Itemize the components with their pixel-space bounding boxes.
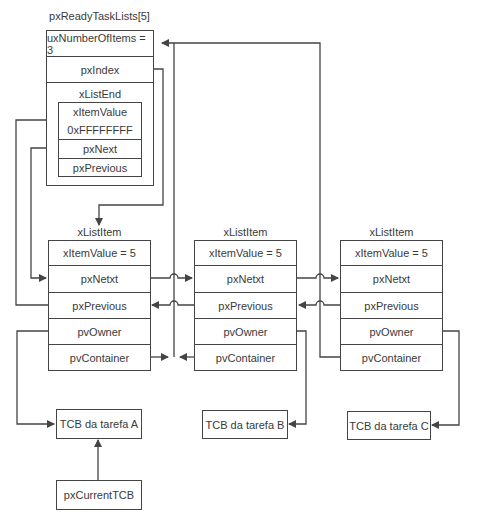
tcb-task-a: TCB da tarefa A (56, 409, 142, 439)
list-end-px-next: pxNext (59, 140, 141, 159)
px-next-field: pxNetxt (49, 266, 150, 293)
ready-list-box: uxNumberOfItems = 3 pxIndex xListEnd xIt… (46, 30, 154, 186)
current-tcb-pointer: pxCurrentTCB (56, 480, 142, 510)
list-item-2-title: xListItem (194, 226, 297, 238)
item-value-field: xItemValue = 5 (195, 241, 296, 266)
list-item-1-title: xListItem (48, 226, 151, 238)
ready-list-title: pxReadyTaskLists[5] (46, 10, 153, 22)
px-previous-field: pxPrevious (49, 293, 150, 319)
item-value: 0xFFFFFFFF (67, 121, 132, 139)
list-item-3-title: xListItem (340, 226, 443, 238)
px-index-field: pxIndex (47, 57, 153, 83)
list-item-3: xItemValue = 5 pxNetxt pxPrevious pvOwne… (340, 240, 443, 371)
pv-owner-field: pvOwner (195, 319, 296, 345)
pv-container-field: pvContainer (195, 345, 296, 371)
px-previous-field: pxPrevious (195, 293, 296, 319)
px-next-field: pxNetxt (195, 266, 296, 293)
tcb-task-c: TCB da tarefa C (347, 411, 431, 440)
list-item-1: xItemValue = 5 pxNetxt pxPrevious pvOwne… (48, 240, 151, 371)
item-value-label: xItemValue (73, 103, 127, 121)
pv-container-field: pvContainer (341, 345, 442, 371)
item-value-field: xItemValue = 5 (49, 241, 150, 266)
pv-owner-field: pvOwner (341, 319, 442, 345)
px-next-field: pxNetxt (341, 266, 442, 293)
list-item-2: xItemValue = 5 pxNetxt pxPrevious pvOwne… (194, 240, 297, 371)
list-end-px-previous: pxPrevious (59, 159, 141, 177)
list-end-box: xItemValue 0xFFFFFFFF pxNext pxPrevious (58, 102, 142, 177)
px-previous-field: pxPrevious (341, 293, 442, 319)
ux-number-of-items-field: uxNumberOfItems = 3 (47, 31, 153, 57)
pv-owner-field: pvOwner (49, 319, 150, 345)
list-end-title: xListEnd (47, 88, 153, 100)
tcb-task-b: TCB da tarefa B (202, 410, 288, 439)
item-value-field: xItemValue = 5 (341, 241, 442, 266)
list-end-item-value: xItemValue 0xFFFFFFFF (59, 103, 141, 140)
pv-container-field: pvContainer (49, 345, 150, 371)
